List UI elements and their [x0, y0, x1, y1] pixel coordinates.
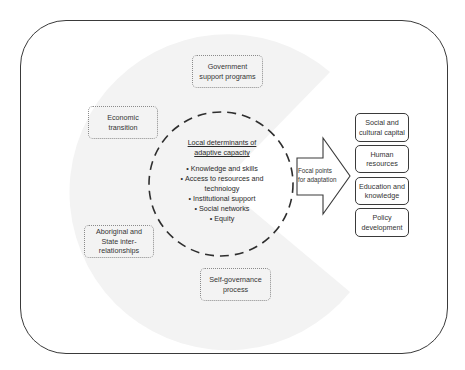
focal-label: resources [366, 159, 398, 169]
focal-social-cultural-capital: Social and cultural capital [355, 113, 409, 142]
arrow-label-line: for adaptation [298, 175, 354, 184]
influence-label: relationships [96, 246, 142, 256]
focal-education-knowledge: Education and knowledge [355, 177, 409, 205]
determinants-list: Knowledge and skills Access to resources… [164, 164, 280, 224]
determinant-item: Institutional support [164, 194, 280, 204]
influence-government-support: Government support programs [192, 55, 263, 88]
arrow-label: Focal points for adaptation [298, 166, 354, 184]
determinant-item: Social networks [164, 204, 280, 214]
focal-label: Human [366, 150, 398, 160]
focal-label: cultural capital [359, 128, 405, 138]
arrow-label-line: Focal points [298, 166, 354, 175]
focal-label: development [361, 223, 402, 233]
influence-aboriginal-state: Aboriginal and State inter- relationship… [84, 225, 154, 258]
determinants-title-line: adaptive capacity [164, 148, 280, 158]
influence-label: process [209, 285, 261, 295]
focal-label: Social and [359, 118, 405, 128]
focal-label: Education and [359, 182, 405, 192]
influence-label: support programs [199, 72, 255, 82]
influence-economic-transition: Economic transition [88, 106, 158, 139]
influence-self-governance: Self-governance process [200, 268, 271, 301]
influence-label: Government [199, 62, 255, 72]
influence-label: Economic [107, 113, 139, 123]
focal-policy-development: Policy development [355, 208, 409, 237]
determinant-item: Equity [164, 214, 280, 224]
determinants-title: Local determinants of adaptive capacity [164, 138, 280, 158]
focal-label: Policy [361, 213, 402, 223]
focal-human-resources: Human resources [355, 145, 409, 173]
influence-label: Self-governance [209, 275, 261, 285]
influence-label: State inter- [96, 237, 142, 247]
influence-label: Aboriginal and [96, 227, 142, 237]
determinant-item: Knowledge and skills [164, 164, 280, 174]
determinants-title-line: Local determinants of [164, 138, 280, 148]
determinants-content: Local determinants of adaptive capacity … [164, 138, 280, 224]
influence-label: transition [107, 123, 139, 133]
determinant-item-continuation: technology [164, 184, 280, 194]
focal-label: knowledge [359, 191, 405, 201]
determinant-item: Access to resources and [164, 174, 280, 184]
